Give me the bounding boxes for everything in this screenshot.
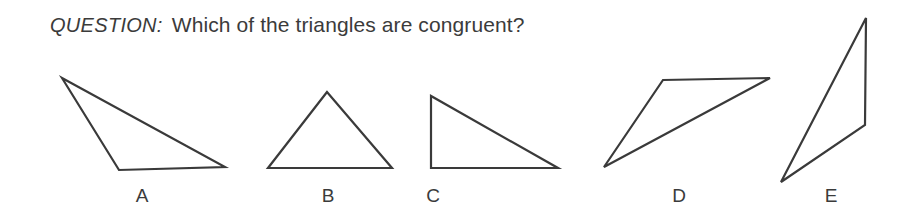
- triangle-c-label: C: [418, 186, 448, 205]
- triangle-d-shape: [604, 78, 770, 167]
- triangle-c-shape: [431, 96, 558, 168]
- triangle-figure-group: [0, 0, 907, 214]
- triangle-a-shape: [62, 78, 225, 170]
- triangle-d-label: D: [664, 186, 694, 205]
- triangle-e-shape: [781, 18, 866, 182]
- worksheet-canvas: QUESTION:Which of the triangles are cong…: [0, 0, 907, 214]
- triangle-a-label: A: [127, 186, 157, 205]
- triangle-b-shape: [268, 92, 392, 168]
- triangle-e-label: E: [816, 186, 846, 205]
- triangle-b-label: B: [313, 186, 343, 205]
